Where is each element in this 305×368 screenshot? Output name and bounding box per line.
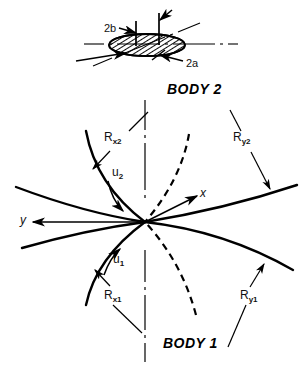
semi-minor-leader bbox=[119, 28, 136, 33]
label-rx1: Rx1 bbox=[104, 288, 122, 304]
label-ry2: Ry2 bbox=[233, 130, 251, 146]
label-rx2: Rx2 bbox=[104, 130, 122, 146]
leader-rx1-bottom bbox=[113, 305, 142, 333]
label-ry1: Ry1 bbox=[240, 288, 258, 304]
label-u2: u2 bbox=[112, 165, 123, 181]
leader-ry1-arrow bbox=[250, 264, 264, 287]
patch-top-arrow bbox=[160, 10, 172, 20]
label-u1: u1 bbox=[113, 252, 124, 268]
label-rx2-sub: x2 bbox=[113, 137, 122, 146]
curve-ry1-right bbox=[145, 222, 293, 270]
label-u1-base: u bbox=[113, 252, 120, 266]
leader-rx1-arrow bbox=[95, 270, 110, 286]
curve-dashed-lower bbox=[145, 222, 196, 315]
semi-major-leader bbox=[160, 55, 183, 61]
curve-dashed-upper bbox=[145, 134, 189, 222]
label-u1-sub: 1 bbox=[120, 259, 124, 268]
semi-minor-axis-label: 2b bbox=[104, 22, 116, 34]
body-1-title: BODY 1 bbox=[163, 335, 218, 351]
label-rx2-base: R bbox=[104, 130, 113, 144]
label-ry1-base: R bbox=[240, 288, 249, 302]
leader-ry2-arrow bbox=[251, 152, 270, 189]
label-u2-base: u bbox=[112, 165, 119, 179]
approach-arrow bbox=[76, 53, 126, 61]
label-rx1-base: R bbox=[104, 288, 113, 302]
leader-ry1-bottom bbox=[228, 305, 246, 347]
label-ry2-sub: y2 bbox=[242, 137, 251, 146]
label-u2-sub: 2 bbox=[119, 172, 123, 181]
leader-ry2-top bbox=[230, 110, 241, 131]
label-rx1-sub: x1 bbox=[113, 295, 122, 304]
x-axis-label: x bbox=[200, 186, 206, 200]
diagram-svg bbox=[0, 0, 305, 368]
label-ry2-base: R bbox=[233, 130, 242, 144]
curve-ry1-left bbox=[22, 222, 145, 248]
semi-major-axis-label: 2a bbox=[186, 57, 198, 69]
contact-patch-inset bbox=[76, 10, 238, 66]
label-ry1-sub: y1 bbox=[249, 295, 258, 304]
figure-canvas: 2b 2a BODY 2 BODY 1 Rx2 u2 Ry2 u1 Rx1 Ry… bbox=[0, 0, 305, 368]
body-2-title: BODY 2 bbox=[167, 81, 222, 97]
y-axis-label: y bbox=[20, 213, 26, 227]
